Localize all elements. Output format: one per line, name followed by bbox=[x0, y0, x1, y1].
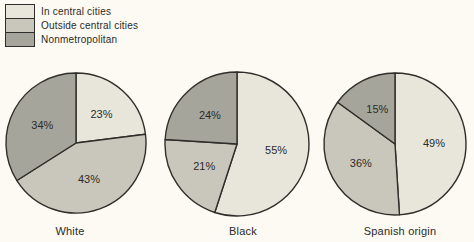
legend-label-nonmetropolitan: Nonmetropolitan bbox=[41, 33, 138, 47]
pie-chart-black: 55%21%24% bbox=[163, 70, 311, 222]
pie-value-label: 49% bbox=[423, 137, 445, 149]
legend-labels: In central cities Outside central cities… bbox=[41, 4, 138, 47]
pie-value-label: 43% bbox=[78, 173, 100, 185]
pie-chart-figure: In central cities Outside central cities… bbox=[0, 0, 474, 242]
pie-white-svg: 23%43%34% bbox=[4, 71, 148, 215]
legend-swatch-nonmetropolitan bbox=[6, 32, 34, 46]
pie-caption-white: White bbox=[55, 225, 84, 237]
pie-value-label: 55% bbox=[265, 144, 287, 156]
legend-swatch-box bbox=[5, 4, 35, 47]
pie-black-svg: 55%21%24% bbox=[163, 70, 311, 218]
legend-label-in-central-cities: In central cities bbox=[41, 4, 138, 18]
pie-value-label: 24% bbox=[199, 109, 221, 121]
pie-caption-black: Black bbox=[229, 225, 257, 237]
pie-value-label: 15% bbox=[366, 103, 388, 115]
legend-swatch-outside-central-cities bbox=[6, 18, 34, 32]
pie-caption-spanish-origin: Spanish origin bbox=[364, 225, 437, 237]
pie-value-label: 21% bbox=[193, 160, 215, 172]
pie-value-label: 23% bbox=[90, 108, 112, 120]
pie-slice-nonmetropolitan bbox=[165, 72, 237, 144]
legend-label-outside-central-cities: Outside central cities bbox=[41, 18, 138, 32]
legend: In central cities Outside central cities… bbox=[5, 4, 138, 47]
pie-chart-white: 23%43%34% bbox=[4, 71, 148, 219]
legend-swatch-in-central-cities bbox=[6, 5, 34, 18]
pie-value-label: 34% bbox=[31, 119, 53, 131]
pie-chart-spanish-origin: 49%36%15% bbox=[322, 71, 468, 221]
pie-spanish-origin-svg: 49%36%15% bbox=[322, 71, 468, 217]
pie-value-label: 36% bbox=[350, 157, 372, 169]
